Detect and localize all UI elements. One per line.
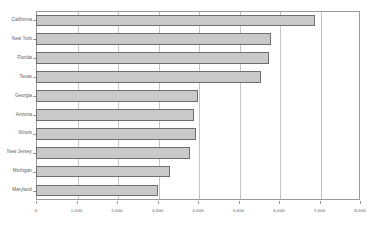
x-axis-tick xyxy=(158,201,159,204)
bars-layer xyxy=(36,11,360,200)
bar xyxy=(36,52,269,64)
x-axis-label: 1,000 xyxy=(71,209,83,213)
bar xyxy=(36,128,196,140)
bar-row xyxy=(36,128,360,140)
x-axis-tick xyxy=(36,201,37,204)
x-axis-label: 7,000 xyxy=(314,209,326,213)
x-axis-label: 6,000 xyxy=(273,209,285,213)
y-axis-label: Maryland xyxy=(12,188,32,193)
bar-row xyxy=(36,71,360,83)
x-axis-label: 0 xyxy=(35,209,38,213)
x-axis-tick xyxy=(117,201,118,204)
y-axis-label: New York xyxy=(12,37,32,42)
x-axis-tick xyxy=(198,201,199,204)
bar-row xyxy=(36,166,360,178)
bar xyxy=(36,185,158,197)
bar xyxy=(36,147,190,159)
bar xyxy=(36,71,261,83)
bar-row xyxy=(36,33,360,45)
bar xyxy=(36,166,170,178)
x-axis-tick xyxy=(239,201,240,204)
y-axis-label: Texas xyxy=(20,75,33,80)
x-axis-label: 4,000 xyxy=(192,209,204,213)
y-axis-label: Arizona xyxy=(16,113,32,118)
x-axis-tick xyxy=(279,201,280,204)
bar-row xyxy=(36,52,360,64)
y-axis-label: Georgia xyxy=(15,94,32,99)
y-axis-label: Michigan xyxy=(13,169,32,174)
bar-chart: CaliforniaNew YorkFloridaTexasGeorgiaAri… xyxy=(0,0,376,229)
bar xyxy=(36,109,194,121)
y-axis-label: Illinois xyxy=(18,131,32,136)
x-axis-label: 2,000 xyxy=(111,209,123,213)
x-axis-label: 8,000 xyxy=(354,209,366,213)
bar xyxy=(36,90,198,102)
x-axis: 01,0002,0003,0004,0005,0006,0007,0008,00… xyxy=(36,201,360,221)
y-axis-label: Florida xyxy=(17,56,32,61)
x-axis-label: 3,000 xyxy=(152,209,164,213)
x-axis-tick xyxy=(77,201,78,204)
y-axis: CaliforniaNew YorkFloridaTexasGeorgiaAri… xyxy=(0,11,34,200)
bar-row xyxy=(36,147,360,159)
x-axis-tick xyxy=(360,201,361,204)
x-axis-label: 5,000 xyxy=(233,209,245,213)
bar xyxy=(36,33,271,45)
bar-row xyxy=(36,109,360,121)
bar-row xyxy=(36,90,360,102)
x-axis-tick xyxy=(320,201,321,204)
bar-row xyxy=(36,185,360,197)
y-axis-label: California xyxy=(12,18,32,23)
bar-row xyxy=(36,15,360,27)
y-axis-label: New Jersey xyxy=(7,150,32,155)
bar xyxy=(36,15,315,27)
